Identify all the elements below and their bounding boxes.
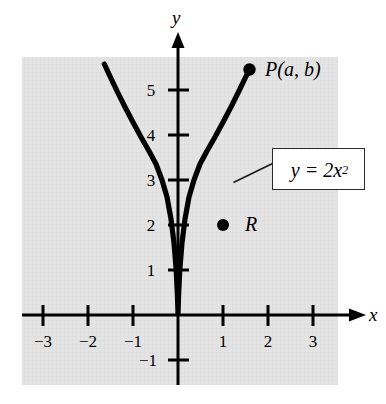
point-p-label: P(a, b): [265, 59, 321, 79]
point-p-marker: [243, 63, 255, 75]
x-tick-label-3: 3: [303, 333, 323, 350]
y-tick-label--1: −1: [136, 352, 160, 369]
point-r-label: R: [245, 214, 257, 234]
x-tick-label--2: −2: [78, 333, 98, 350]
y-tick-label-1: 1: [141, 262, 161, 279]
plot-background-panel: [22, 57, 338, 385]
y-axis-arrowhead: [172, 32, 185, 48]
y-axis-label: y: [172, 8, 180, 27]
parabola-figure: y = 2x2 P(a, b) R y x −3 −2 −1 1 2 3 5 4…: [0, 0, 386, 404]
x-tick-label--3: −3: [33, 333, 53, 350]
equation-body: y = 2x: [291, 159, 342, 182]
x-tick-label--1: −1: [123, 333, 143, 350]
plot-canvas: [0, 0, 386, 404]
x-tick-label-2: 2: [258, 333, 278, 350]
x-axis-label: x: [369, 305, 377, 324]
x-tick-label-1: 1: [213, 333, 233, 350]
y-tick-label-4: 4: [141, 127, 161, 144]
y-tick-label-5: 5: [141, 82, 161, 99]
equation-callout-box: y = 2x2: [272, 148, 365, 190]
x-axis-arrowhead: [349, 309, 366, 322]
y-tick-label-2: 2: [141, 217, 161, 234]
point-r-marker: [217, 219, 229, 231]
y-tick-label-3: 3: [141, 172, 161, 189]
equation-callout-text: y = 2x2: [273, 149, 366, 191]
